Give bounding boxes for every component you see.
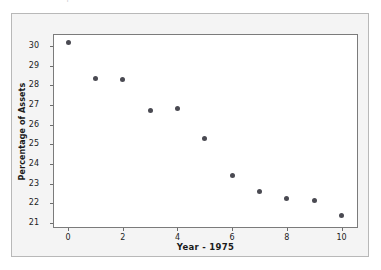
x-tick-mark — [342, 228, 343, 231]
x-tick-label: 2 — [103, 234, 143, 242]
x-tick-mark — [123, 228, 124, 231]
y-tick-mark — [50, 144, 53, 145]
y-axis-title: Percentage of Assets — [17, 34, 29, 228]
data-point — [148, 108, 153, 113]
x-tick-label: 10 — [322, 234, 362, 242]
x-tick-mark — [177, 228, 178, 231]
x-tick-mark — [232, 228, 233, 231]
y-tick-mark — [50, 85, 53, 86]
data-point — [230, 173, 235, 178]
x-tick-mark — [287, 228, 288, 231]
y-tick-mark — [50, 105, 53, 106]
data-point — [312, 198, 317, 203]
x-tick-label: 8 — [267, 234, 307, 242]
data-point — [66, 40, 71, 45]
data-point — [339, 213, 344, 218]
x-tick-label: 4 — [157, 234, 197, 242]
x-axis-title: Year - 1975 — [53, 242, 358, 252]
top-edge-text-bleed: rmation from a spreadsheet — [0, 0, 381, 6]
y-tick-mark — [50, 223, 53, 224]
x-tick-label: 6 — [212, 234, 252, 242]
y-axis-title-text: Percentage of Assets — [19, 82, 28, 180]
scatter-plot: 21222324252627282930 0246810 Percentage … — [12, 14, 370, 258]
chart-panel: 21222324252627282930 0246810 Percentage … — [11, 13, 369, 257]
clipped-text-sliver: rmation from a spreadsheet — [0, 0, 112, 2]
x-tick-mark — [68, 228, 69, 231]
y-tick-mark — [50, 66, 53, 67]
y-tick-mark — [50, 164, 53, 165]
x-tick-label: 0 — [48, 234, 88, 242]
y-tick-mark — [50, 125, 53, 126]
y-tick-mark — [50, 46, 53, 47]
y-tick-mark — [50, 203, 53, 204]
y-tick-mark — [50, 184, 53, 185]
data-point — [93, 76, 98, 81]
